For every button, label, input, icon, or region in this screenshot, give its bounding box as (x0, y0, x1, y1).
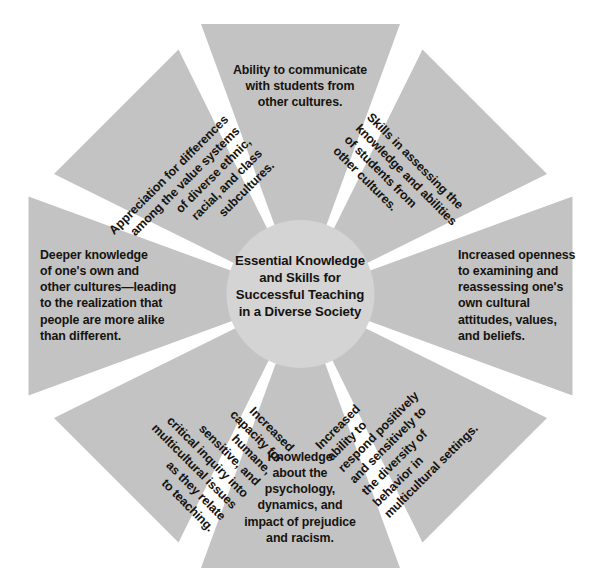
radial-diagram: Essential Knowledge and Skills for Succe… (0, 0, 601, 586)
wedge-label-top: Ability to communicate with students fro… (200, 62, 400, 110)
hub-label: Essential Knowledge and Skills for Succe… (208, 252, 392, 321)
